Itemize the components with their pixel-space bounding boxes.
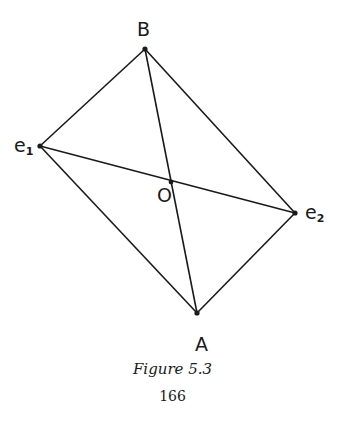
point-a bbox=[194, 310, 199, 315]
edge-b-e1 bbox=[40, 49, 145, 146]
page-number: 166 bbox=[0, 388, 345, 404]
parallelogram-diagram bbox=[0, 0, 345, 421]
edge-e2-a bbox=[197, 213, 295, 313]
label-b: B bbox=[137, 20, 150, 39]
label-a: A bbox=[195, 335, 208, 354]
point-b bbox=[142, 46, 147, 51]
label-o: O bbox=[157, 186, 172, 205]
label-e1: e1 bbox=[14, 136, 33, 157]
point-e1 bbox=[37, 143, 42, 148]
figure-caption: Figure 5.3 bbox=[0, 360, 345, 378]
label-e2: e2 bbox=[305, 203, 324, 224]
edge-e1-a bbox=[40, 146, 197, 313]
point-e2 bbox=[292, 210, 297, 215]
